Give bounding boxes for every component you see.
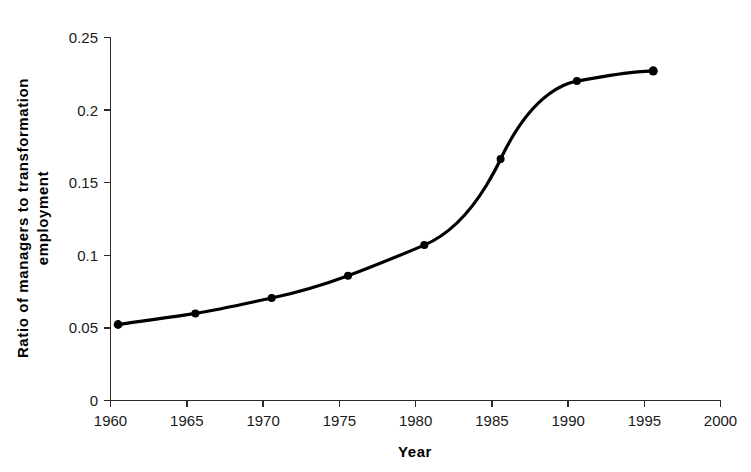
data-point-1991: [573, 77, 581, 85]
x-tick-label-1960: 1960: [94, 412, 127, 429]
x-axis-title: Year: [398, 443, 432, 460]
x-tick-label-1970: 1970: [246, 412, 279, 429]
data-point-1966: [191, 309, 199, 317]
data-point-1961: [114, 320, 123, 329]
x-tick-label-1975: 1975: [323, 412, 356, 429]
data-point-1986: [497, 155, 505, 163]
data-series-line: [118, 71, 653, 325]
x-tick-labels: 1960 1965 1970 1975 1980 1985 1990 1995 …: [94, 412, 737, 429]
y-tick-label-0.05: 0.05: [69, 319, 98, 336]
x-tick-label-1990: 1990: [552, 412, 585, 429]
axes-group: [111, 37, 721, 401]
x-tick-label-1965: 1965: [170, 412, 203, 429]
y-axis-title-line2: employment: [34, 171, 51, 265]
chart-figure: 0 0.05 0.1 0.15 0.2 0.25 1960 1965 1970 …: [0, 0, 751, 472]
x-tick-label-2000: 2000: [704, 412, 737, 429]
y-tick-label-0.25: 0.25: [69, 29, 98, 46]
data-point-markers: [114, 66, 658, 329]
y-tick-label-0.2: 0.2: [77, 102, 98, 119]
y-tick-marks: [104, 38, 111, 401]
x-tick-marks: [111, 401, 721, 408]
x-tick-label-1985: 1985: [475, 412, 508, 429]
data-point-1981: [420, 241, 428, 249]
data-point-1971: [268, 294, 276, 302]
y-tick-label-0: 0: [90, 392, 98, 409]
y-tick-labels: 0 0.05 0.1 0.15 0.2 0.25: [69, 29, 98, 409]
data-point-1996: [649, 66, 658, 75]
y-tick-label-0.15: 0.15: [69, 174, 98, 191]
line-chart-canvas: 0 0.05 0.1 0.15 0.2 0.25 1960 1965 1970 …: [0, 0, 751, 472]
data-point-1976: [344, 272, 352, 280]
x-tick-label-1980: 1980: [399, 412, 432, 429]
y-tick-label-0.1: 0.1: [77, 247, 98, 264]
y-axis-title-line1: Ratio of managers to transformation: [14, 78, 31, 358]
x-tick-label-1995: 1995: [628, 412, 661, 429]
